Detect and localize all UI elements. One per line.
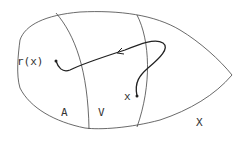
point-rx (55, 60, 58, 63)
label-space-x: X (196, 116, 203, 129)
point-x (136, 95, 139, 98)
label-point-x: x (124, 90, 131, 103)
label-retraction: r(x) (17, 55, 44, 68)
diagram-canvas: r(x) x A V X (0, 0, 247, 142)
label-region-a: A (61, 106, 68, 119)
region-v-boundary (137, 15, 148, 127)
space-x-boundary (18, 12, 232, 129)
retraction-path (56, 41, 165, 96)
label-region-v: V (98, 106, 105, 119)
